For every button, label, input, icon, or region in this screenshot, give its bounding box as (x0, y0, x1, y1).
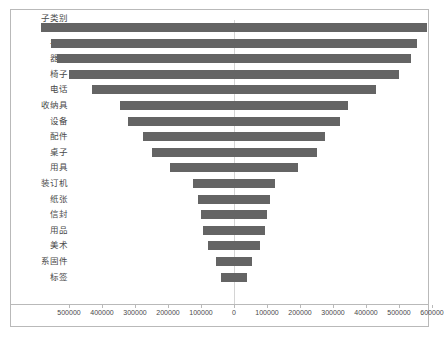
bar[interactable] (221, 273, 247, 282)
x-axis-tick-mark (135, 305, 136, 308)
bar[interactable] (170, 163, 299, 172)
x-axis-tick-mark (267, 305, 268, 308)
category-label: 设备 (8, 117, 68, 126)
bar[interactable] (69, 70, 399, 79)
category-label: 电话 (8, 85, 68, 94)
category-label: 配件 (8, 132, 68, 141)
category-label: 用品 (8, 226, 68, 235)
x-axis-tick-mark (201, 305, 202, 308)
x-axis-tick-mark (333, 305, 334, 308)
bar[interactable] (41, 23, 427, 32)
category-label: 装订机 (8, 179, 68, 188)
category-label: 信封 (8, 210, 68, 219)
category-label: 系固件 (8, 257, 68, 266)
category-label: 收纳具 (8, 101, 68, 110)
bar[interactable] (57, 54, 410, 63)
bar[interactable] (152, 148, 317, 157)
x-axis-tick-mark (168, 305, 169, 308)
bar[interactable] (143, 132, 325, 141)
x-axis-tick-label: 600000 (407, 309, 448, 317)
category-label: 桌子 (8, 148, 68, 157)
bar[interactable] (216, 257, 252, 266)
category-label: 纸张 (8, 195, 68, 204)
x-axis-tick-mark (69, 305, 70, 308)
x-axis-tick-mark (432, 305, 433, 308)
x-axis-tick-mark (234, 305, 235, 308)
category-label: 用具 (8, 163, 68, 172)
x-axis-tick-mark (399, 305, 400, 308)
x-axis-tick-mark (102, 305, 103, 308)
bar[interactable] (208, 241, 261, 250)
x-axis-tick-mark (366, 305, 367, 308)
bar[interactable] (193, 179, 276, 188)
bar[interactable] (92, 85, 376, 94)
bar[interactable] (128, 117, 339, 126)
bar[interactable] (201, 210, 267, 219)
category-label: 标签 (8, 273, 68, 282)
bar[interactable] (51, 39, 417, 48)
bar[interactable] (120, 101, 348, 110)
category-label: 椅子 (8, 70, 68, 79)
category-label: 美术 (8, 241, 68, 250)
x-axis-tick-mark (300, 305, 301, 308)
bar[interactable] (203, 226, 266, 235)
bar[interactable] (198, 195, 271, 204)
